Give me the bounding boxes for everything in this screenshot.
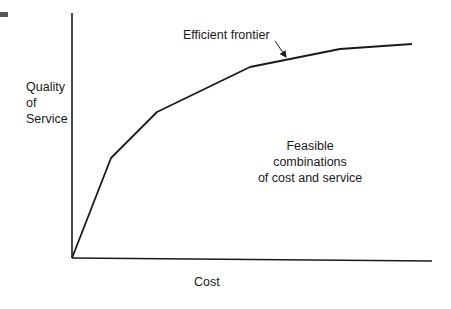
- y-axis-label: Quality of Service: [26, 79, 68, 127]
- frontier-annotation: Efficient frontier: [183, 28, 270, 43]
- feasible-label-line: of cost and service: [245, 170, 375, 186]
- feasible-label-line: Feasible: [245, 138, 375, 154]
- x-axis: [72, 258, 432, 261]
- feasible-region-label: Feasible combinations of cost and servic…: [245, 138, 375, 186]
- chart-plot: [0, 0, 451, 309]
- frontier-arrow: [275, 41, 286, 57]
- y-axis-label-line: Service: [26, 111, 68, 127]
- x-axis-label: Cost: [194, 275, 220, 290]
- y-axis-label-line: Quality: [26, 79, 68, 95]
- feasible-label-line: combinations: [245, 154, 375, 170]
- y-axis-label-line: of: [26, 95, 68, 111]
